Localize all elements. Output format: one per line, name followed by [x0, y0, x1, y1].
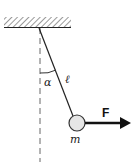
angle-arc	[40, 70, 56, 73]
pendulum-string	[39, 28, 73, 116]
pendulum-diagram: α ℓ m F	[0, 0, 138, 165]
angle-label: α	[44, 76, 52, 89]
length-label: ℓ	[65, 73, 70, 86]
force-label: F	[102, 106, 109, 120]
pendulum-bob	[69, 115, 85, 131]
mass-label: m	[70, 133, 80, 146]
ceiling-support	[4, 17, 71, 28]
